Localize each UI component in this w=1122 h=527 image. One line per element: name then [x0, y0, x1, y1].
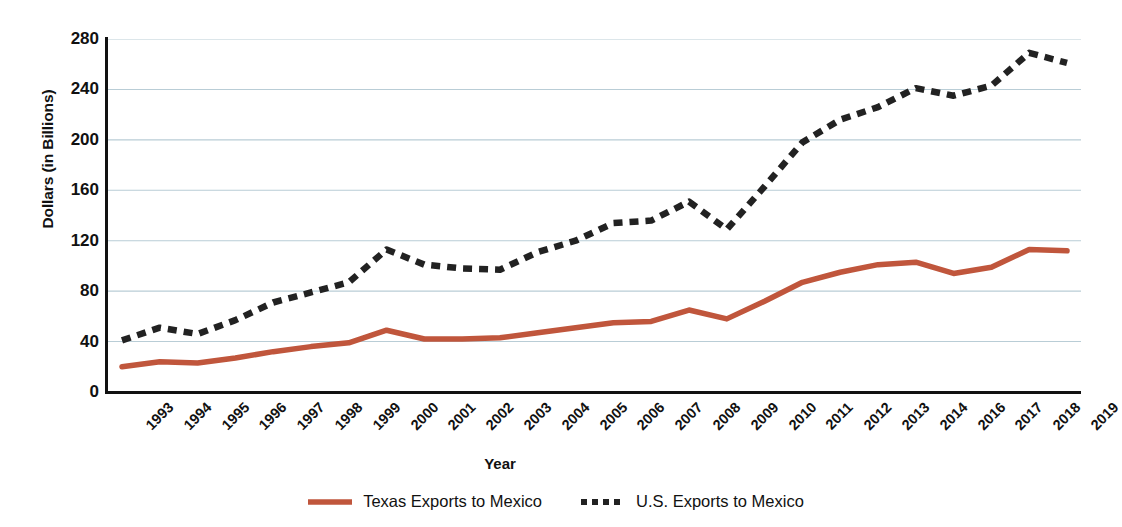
- x-tick-label: 1998: [331, 399, 365, 433]
- x-tick-label: 2012: [861, 399, 895, 433]
- x-tick-label: 1996: [256, 399, 290, 433]
- x-tick-label: 2008: [709, 399, 743, 433]
- legend-entry-2[interactable]: U.S. Exports to Mexico: [580, 492, 804, 511]
- x-tick-label: 2010: [785, 399, 819, 433]
- x-tick-label: 2013: [898, 399, 932, 433]
- legend-label: U.S. Exports to Mexico: [636, 492, 804, 511]
- dashed-line-swatch: [580, 495, 626, 509]
- x-tick-label: 2002: [483, 399, 517, 433]
- x-tick-label: 2003: [520, 399, 554, 433]
- legend-entry-1[interactable]: Texas Exports to Mexico: [307, 492, 542, 511]
- x-tick-label: 2017: [1012, 399, 1046, 433]
- x-tick-label: 2006: [634, 399, 668, 433]
- x-tick-label: 2019: [1087, 399, 1121, 433]
- solid-line-swatch: [307, 495, 353, 509]
- x-tick-label: 2014: [936, 399, 970, 433]
- x-tick-label: 1995: [218, 399, 252, 433]
- x-tick-label: 2011: [823, 399, 857, 433]
- x-tick-label: 2016: [974, 399, 1008, 433]
- x-tick-label: 1994: [180, 399, 214, 433]
- x-tick-label: 1993: [142, 399, 176, 433]
- legend-label: Texas Exports to Mexico: [363, 492, 542, 511]
- x-tick-label: 1999: [369, 399, 403, 433]
- x-tick-label: 2000: [407, 399, 441, 433]
- x-axis-title: Year: [0, 455, 1000, 472]
- chart-legend: Texas Exports to MexicoU.S. Exports to M…: [0, 492, 1111, 511]
- x-tick-label: 2004: [558, 399, 592, 433]
- x-tick-label: 2007: [672, 399, 706, 433]
- x-tick-label: 2001: [445, 399, 479, 433]
- x-tick-label: 1997: [294, 399, 328, 433]
- x-tick-label: 2005: [596, 399, 630, 433]
- x-tick-label: 2018: [1050, 399, 1084, 433]
- x-tick-label: 2009: [747, 399, 781, 433]
